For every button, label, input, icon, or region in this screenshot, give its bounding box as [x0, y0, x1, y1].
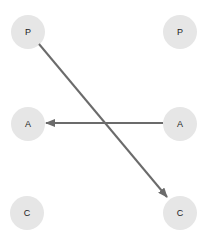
- node-a-left[interactable]: A: [11, 107, 45, 141]
- node-label: C: [177, 208, 184, 218]
- node-a-right[interactable]: A: [163, 107, 197, 141]
- node-label: A: [25, 119, 31, 129]
- diagram-canvas: P P A A C C: [0, 0, 203, 241]
- node-label: C: [24, 208, 31, 218]
- node-c-right[interactable]: C: [163, 196, 197, 230]
- node-label: A: [177, 119, 183, 129]
- node-p-right[interactable]: P: [163, 15, 197, 49]
- edge-p-to-c: [39, 44, 167, 197]
- node-label: P: [177, 27, 183, 37]
- node-c-left[interactable]: C: [10, 196, 44, 230]
- node-label: P: [25, 27, 31, 37]
